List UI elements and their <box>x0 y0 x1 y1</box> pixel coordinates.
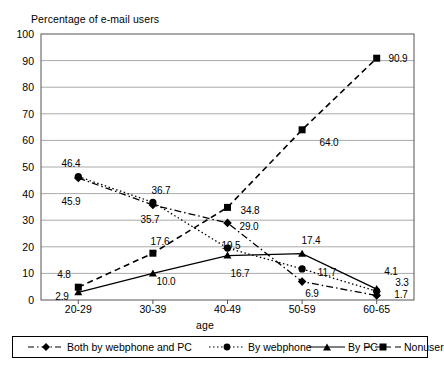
series-both-by-webphone-and-pc <box>74 174 381 300</box>
data-label: 90.9 <box>388 53 407 64</box>
x-axis-tick-20-29: 20-29 <box>65 303 92 315</box>
data-label: 35.7 <box>140 214 159 225</box>
data-label: 17.4 <box>301 235 320 246</box>
legend-marker-diamond-dashdot-icon <box>28 341 64 353</box>
data-label: 1.7 <box>394 289 408 300</box>
chart-legend: Both by webphone and PC By webphone By P… <box>12 336 428 358</box>
data-label: 4.8 <box>57 269 71 280</box>
data-label: 11.7 <box>318 267 336 278</box>
legend-label: By webphone <box>248 341 312 353</box>
legend-marker-triangle-solid-icon <box>309 341 345 353</box>
data-label: 34.8 <box>240 205 259 216</box>
data-label: 17.6 <box>150 236 169 247</box>
data-label: 19.5 <box>221 240 240 251</box>
x-axis-title: age <box>196 319 214 331</box>
x-axis-tick-60-65: 60-65 <box>363 303 390 315</box>
data-label: 6.9 <box>305 288 319 299</box>
data-label: 36.7 <box>151 185 170 196</box>
x-axis-tick-40-49: 40-49 <box>214 303 241 315</box>
x-axis-tick-30-39: 30-39 <box>139 303 166 315</box>
data-label: 45.9 <box>61 196 80 207</box>
chart-container: Percentage of e-mail users 100 90 80 70 … <box>0 0 444 367</box>
x-axis-tick-50-59: 50-59 <box>289 303 316 315</box>
data-label: 16.7 <box>230 268 249 279</box>
legend-marker-circle-dotted-icon <box>209 341 245 353</box>
data-label: 2.9 <box>55 291 69 302</box>
legend-marker-square-dashed-icon <box>365 341 401 353</box>
data-label: 29.0 <box>239 221 258 232</box>
legend-label: Nonuser <box>404 341 444 353</box>
data-label: 64.0 <box>319 137 338 148</box>
data-label: 4.1 <box>384 266 398 277</box>
legend-label: Both by webphone and PC <box>67 341 192 353</box>
legend-item-by-webphone: By webphone <box>209 337 312 357</box>
data-label: 10.0 <box>156 276 175 287</box>
legend-item-nonuser: Nonuser <box>365 337 444 357</box>
data-label: 46.4 <box>61 158 80 169</box>
legend-item-both-by-webphone-and-pc: Both by webphone and PC <box>28 337 192 357</box>
data-label: 3.3 <box>395 277 409 288</box>
